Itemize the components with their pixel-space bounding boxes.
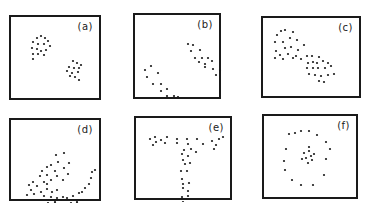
data-point (66, 197, 68, 199)
data-point (43, 54, 45, 56)
data-point (187, 190, 189, 192)
data-point (173, 95, 175, 97)
data-point (284, 47, 286, 49)
data-point (307, 162, 309, 164)
data-point (294, 132, 296, 134)
data-point (176, 138, 178, 140)
data-point (47, 202, 49, 203)
data-point (56, 175, 58, 177)
data-point (333, 73, 335, 75)
data-point (149, 138, 151, 140)
data-point (37, 53, 39, 55)
data-point (306, 67, 308, 69)
data-point (291, 179, 293, 181)
data-point (296, 39, 298, 41)
data-point (152, 83, 154, 85)
data-point (40, 35, 42, 37)
data-point (47, 40, 49, 42)
data-point (81, 191, 83, 193)
data-point (36, 185, 38, 187)
data-point (330, 65, 332, 67)
data-point (314, 74, 316, 76)
data-point (282, 58, 284, 60)
data-point (50, 196, 52, 198)
data-point (184, 163, 186, 165)
data-point (78, 79, 80, 81)
data-point (323, 174, 325, 176)
data-point (28, 184, 30, 186)
data-point (50, 164, 52, 166)
data-point (39, 175, 41, 177)
data-point (164, 142, 166, 144)
data-point (310, 155, 312, 157)
data-point (322, 60, 324, 62)
data-point (74, 76, 76, 78)
data-point (43, 195, 45, 197)
data-point (308, 73, 310, 75)
data-point (50, 179, 52, 181)
data-point (182, 187, 184, 189)
data-point (218, 138, 220, 140)
data-point (155, 141, 157, 143)
data-point (318, 80, 320, 82)
scatter-points (263, 18, 363, 100)
data-point (62, 179, 64, 181)
data-point (182, 183, 184, 185)
data-point (211, 140, 213, 142)
data-point (45, 49, 47, 51)
data-point (307, 62, 309, 64)
panel-f: (f) (262, 114, 358, 199)
data-point (49, 45, 51, 47)
data-point (94, 169, 96, 171)
data-point (73, 67, 75, 69)
data-point (207, 57, 209, 59)
data-point (275, 50, 277, 52)
data-point (276, 34, 278, 36)
data-point (80, 199, 82, 201)
data-point (78, 192, 80, 194)
data-point (181, 153, 183, 155)
data-point (190, 50, 192, 52)
data-point (288, 133, 290, 135)
data-point (166, 136, 168, 138)
data-point (63, 167, 65, 169)
scatter-points (136, 118, 234, 202)
data-point (313, 153, 315, 155)
data-point (176, 142, 178, 144)
data-point (32, 53, 34, 55)
data-point (192, 44, 194, 46)
data-point (66, 70, 68, 72)
data-point (295, 55, 297, 57)
data-point (56, 197, 58, 199)
panel-c: (c) (261, 16, 361, 98)
data-point (32, 58, 34, 60)
data-point (36, 48, 38, 50)
data-point (300, 58, 302, 60)
data-point (26, 194, 28, 196)
data-point (154, 136, 156, 138)
data-point (282, 41, 284, 43)
data-point (46, 188, 48, 190)
data-point (274, 57, 276, 59)
data-point (189, 162, 191, 164)
data-point (312, 184, 314, 186)
data-point (63, 152, 65, 154)
data-point (287, 53, 289, 55)
data-point (68, 162, 70, 164)
data-point (187, 155, 189, 157)
scatter-points (11, 17, 103, 102)
data-point (31, 47, 33, 49)
data-point (297, 49, 299, 51)
data-point (211, 60, 213, 62)
data-point (56, 189, 58, 191)
data-point (300, 184, 302, 186)
data-point (33, 193, 35, 195)
data-point (76, 201, 78, 203)
data-point (166, 88, 168, 90)
data-point (68, 66, 70, 68)
data-point (274, 41, 276, 43)
data-point (160, 139, 162, 141)
data-point (57, 161, 59, 163)
data-point (157, 72, 159, 74)
data-point (78, 67, 80, 69)
